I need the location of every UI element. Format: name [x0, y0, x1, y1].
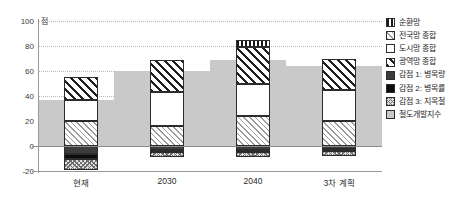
legend-item-4[interactable]: 감점 1: 병목량: [386, 69, 462, 82]
legend-item-label: 철도개발지수: [399, 111, 441, 119]
legend-item-label: 광역망 종합: [399, 58, 436, 66]
y-tick-label: -20: [0, 167, 34, 176]
bar-segment: [236, 47, 270, 83]
bar-segment: [150, 126, 184, 146]
bar-segment: [322, 90, 356, 121]
legend-swatch-icon: [386, 71, 395, 80]
x-axis-line: [32, 171, 382, 172]
legend-swatch-icon: [386, 110, 395, 119]
legend-item-label: 감점 2: 병목률: [399, 85, 445, 93]
chart-legend: 순환망전국망 종합도시망 종합광역망 종합감점 1: 병목량감점 2: 병목률감…: [386, 16, 462, 122]
legend-item-7[interactable]: 철도개발지수: [386, 108, 462, 121]
y-tick-label: 80: [0, 42, 34, 51]
bar-segment: [64, 77, 98, 100]
legend-swatch-icon: [386, 58, 395, 67]
plot-area: [38, 21, 382, 171]
bar-segment: [236, 84, 270, 117]
y-axis-ticks: 100806040200-20: [0, 0, 34, 201]
legend-item-3[interactable]: 광역망 종합: [386, 56, 462, 69]
legend-item-label: 감점 1: 병목량: [399, 71, 445, 79]
bar-segment: [150, 152, 184, 157]
bar-segment: [150, 92, 184, 126]
bar-segment: [64, 100, 98, 121]
y-tick-label: 0: [0, 142, 34, 151]
x-tick-label: 2040: [213, 176, 293, 186]
legend-swatch-icon: [386, 44, 395, 53]
x-tick-label: 3차 계획: [299, 176, 379, 188]
bar-segment: [236, 116, 270, 146]
legend-item-5[interactable]: 감점 2: 병목률: [386, 82, 462, 95]
legend-item-label: 순환망: [399, 19, 420, 27]
y-tick-label: 40: [0, 92, 34, 101]
y-tick-label: 20: [0, 117, 34, 126]
legend-item-0[interactable]: 순환망: [386, 16, 462, 29]
bar-segment: [150, 60, 184, 93]
bar-현재[interactable]: [64, 21, 98, 171]
x-tick-label: 현재: [41, 176, 121, 188]
legend-item-2[interactable]: 도시망 종합: [386, 42, 462, 55]
legend-swatch-icon: [386, 31, 395, 40]
bar-2030[interactable]: [150, 21, 184, 171]
legend-item-label: 감점 3: 지옥철: [399, 98, 445, 106]
bar-3차 계획[interactable]: [322, 21, 356, 171]
y-axis-line: [38, 19, 39, 173]
railway-index-chart: 100806040200-20 점 현재203020403차 계획 순환망전국망…: [0, 0, 463, 201]
legend-swatch-icon: [386, 18, 395, 27]
bar-segment: [64, 159, 98, 170]
legend-swatch-icon: [386, 97, 395, 106]
bar-segment: [236, 40, 270, 48]
bar-segment: [64, 121, 98, 146]
bar-segment: [64, 146, 98, 154]
y-tick-label: 100: [0, 17, 34, 26]
legend-item-1[interactable]: 전국망 종합: [386, 29, 462, 42]
bar-segment: [322, 59, 356, 90]
bar-segment: [322, 121, 356, 146]
zero-baseline: [32, 146, 382, 147]
bar-segment: [322, 151, 356, 156]
legend-item-label: 전국망 종합: [399, 32, 436, 40]
legend-item-6[interactable]: 감점 3: 지옥철: [386, 95, 462, 108]
x-tick-label: 2030: [127, 176, 207, 186]
bar-segment: [236, 152, 270, 157]
y-tick-label: 60: [0, 67, 34, 76]
legend-item-label: 도시망 종합: [399, 45, 436, 53]
legend-swatch-icon: [386, 84, 395, 93]
bar-2040[interactable]: [236, 21, 270, 171]
